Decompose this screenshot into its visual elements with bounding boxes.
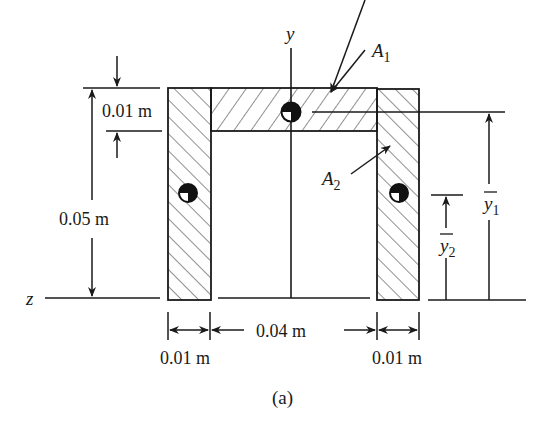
y2-dimension: y2 [431,195,463,300]
figure-caption: (a) [272,387,293,409]
svg-text:y2: y2 [438,235,455,260]
flange-thickness-dimension: 0.01 m [83,56,162,158]
a2-label: A2 [320,168,341,193]
svg-text:0.05 m: 0.05 m [59,209,109,229]
centroid-marker-left-leg [179,184,197,202]
z-axis-label: z [25,288,34,309]
a1-leader-arrow [331,0,365,92]
y1-dimension: y1 [482,114,499,300]
centroid-marker-a1 [282,103,301,122]
z-axis [45,298,526,300]
y-axis-label: y [284,23,295,44]
left-leg-width-label: 0.01 m [160,348,210,368]
svg-text:y1: y1 [482,193,499,218]
centroid-marker-right-leg [390,184,408,202]
inner-width-label: 0.04 m [256,321,306,341]
bottom-width-dimensions: 0.01 m 0.04 m 0.01 m [160,312,422,368]
right-leg-width-label: 0.01 m [372,348,422,368]
cross-section-diagram: y z A1 A2 y1 [0,0,549,434]
svg-text:0.01 m: 0.01 m [102,101,152,121]
a1-label: A1 [370,40,391,65]
